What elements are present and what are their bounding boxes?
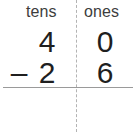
answer-digit-tens[interactable] [34,91,60,125]
subtraction-worksheet: tens ones 4 0 – 2 6 [0,0,136,132]
minuend-row: 4 0 [0,26,136,58]
column-header-ones: ones [84,2,119,22]
minuend-digit-tens: 4 [34,26,60,58]
subtrahend-digit-tens: 2 [34,57,60,89]
subtrahend-digit-ones: 6 [92,57,118,89]
answer-area [0,89,136,132]
subtrahend-row: – 2 6 [0,57,136,89]
minuend-digit-ones: 0 [92,26,118,58]
column-header-tens: tens [26,2,57,22]
answer-rule-line [3,87,133,88]
column-headers: tens ones [0,1,136,23]
minus-operator-icon: – [6,57,32,89]
answer-digit-ones[interactable] [92,91,118,125]
